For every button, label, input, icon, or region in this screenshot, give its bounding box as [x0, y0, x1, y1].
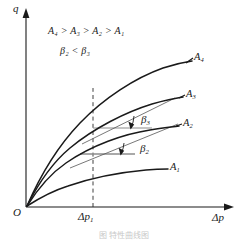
angle-label-beta3: β3: [141, 114, 150, 125]
curve-label-A2-subscript: 2: [189, 122, 192, 129]
figure-caption: 图 特性曲线图: [0, 229, 248, 240]
chart-figure: q Δp O Δp1 A₄ > A₃ > A₂ > A₁ β₂ < β₃ A4 …: [0, 0, 248, 243]
y-axis-label: q: [13, 3, 19, 14]
x-axis: [26, 204, 234, 211]
curve-label-A3: A3: [186, 89, 196, 100]
dashed-axis-tick-label: Δp1: [78, 211, 93, 222]
x-axis-label: Δp: [212, 212, 224, 223]
dashed-subscript: 1: [90, 216, 93, 223]
x-axis-p-symbol: p: [218, 211, 224, 223]
note-area-relation: A₄ > A₃ > A₂ > A₁: [48, 26, 124, 36]
curve-label-A3-subscript: 3: [192, 93, 195, 100]
curve-label-A4-subscript: 4: [200, 56, 203, 63]
angle-label-beta3-subscript: 3: [146, 119, 149, 126]
origin-label: O: [13, 207, 21, 218]
curve-A4: [27, 61, 192, 206]
tangent-line-A3: [82, 98, 175, 144]
y-axis: [23, 8, 30, 207]
curve-A1: [27, 169, 168, 206]
chart-plot-area: [0, 0, 248, 243]
note-beta-relation: β₂ < β₃: [60, 46, 90, 56]
curve-label-A4: A4: [194, 52, 204, 63]
curve-label-A2: A2: [183, 118, 193, 129]
angle-label-beta2: β2: [140, 143, 149, 154]
curve-label-A1: A1: [170, 162, 180, 173]
curve-A3: [27, 97, 183, 206]
curve-label-A1-subscript: 1: [176, 166, 179, 173]
angle-label-beta2-subscript: 2: [145, 148, 148, 155]
